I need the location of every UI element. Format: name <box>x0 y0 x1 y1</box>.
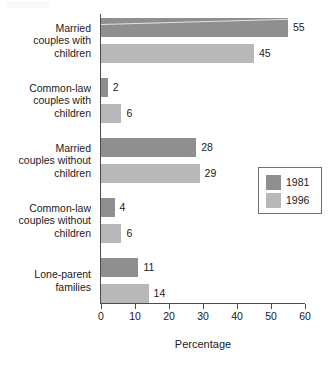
x-tick-label-40: 40 <box>222 310 252 322</box>
bar-1996-group-1[interactable] <box>101 44 254 63</box>
bar-1996-group-5[interactable] <box>101 284 149 303</box>
bar-1981-group-2[interactable] <box>101 78 108 97</box>
x-tick-label-0: 0 <box>86 310 116 322</box>
bar-value-label-1996-group-2: 6 <box>126 104 132 123</box>
x-tick-label-30: 30 <box>188 310 218 322</box>
legend-box: 1981 1996 <box>258 167 322 214</box>
legend-swatch-1996 <box>266 193 281 208</box>
bar-value-label-1981-group-4: 4 <box>120 198 126 217</box>
x-tick-0 <box>101 304 102 309</box>
bar-1981-group-5[interactable] <box>101 258 138 277</box>
bar-1981-group-3[interactable] <box>101 138 196 157</box>
bar-value-label-1981-group-2: 2 <box>113 78 119 97</box>
legend-swatch-1981 <box>266 175 281 190</box>
bar-1981-group-4[interactable] <box>101 198 115 217</box>
x-tick-20 <box>169 304 170 309</box>
x-tick-40 <box>237 304 238 309</box>
bar-1996-group-4[interactable] <box>101 224 121 243</box>
scan-artifact-smudge <box>6 1 50 8</box>
category-label-5: Lone-parentfamilies <box>0 268 95 293</box>
bar-chart-figure: Marriedcouples withchildrenCommon-lawcou… <box>0 0 330 366</box>
bar-1996-group-2[interactable] <box>101 104 121 123</box>
category-label-3: Marriedcouples withoutchildren <box>0 142 95 180</box>
bar-value-label-1981-group-3: 28 <box>201 138 213 157</box>
bar-value-label-1981-group-1: 55 <box>293 18 305 37</box>
category-label-1: Marriedcouples withchildren <box>0 22 95 60</box>
bar-1996-group-3[interactable] <box>101 164 200 183</box>
x-tick-label-60: 60 <box>290 310 320 322</box>
legend-label-1981: 1981 <box>286 176 309 189</box>
plot-area: 0102030405060 5545262829461114 <box>101 14 305 303</box>
category-label-4: Common-lawcouples withoutchildren <box>0 202 95 240</box>
bar-value-label-1996-group-3: 29 <box>205 164 217 183</box>
x-tick-30 <box>203 304 204 309</box>
x-axis-title: Percentage <box>101 338 305 350</box>
bar-value-label-1981-group-5: 11 <box>143 258 154 277</box>
x-tick-10 <box>135 304 136 309</box>
x-tick-50 <box>271 304 272 309</box>
bar-value-label-1996-group-4: 6 <box>126 224 132 243</box>
bar-1981-group-1[interactable] <box>101 18 288 37</box>
bar-value-label-1996-group-1: 45 <box>259 44 271 63</box>
x-tick-label-20: 20 <box>154 310 184 322</box>
legend-label-1996: 1996 <box>286 194 309 207</box>
category-label-2: Common-lawcouples withchildren <box>0 82 95 120</box>
x-tick-label-50: 50 <box>256 310 286 322</box>
x-tick-60 <box>305 304 306 309</box>
x-tick-label-10: 10 <box>120 310 150 322</box>
bar-value-label-1996-group-5: 14 <box>154 284 166 303</box>
